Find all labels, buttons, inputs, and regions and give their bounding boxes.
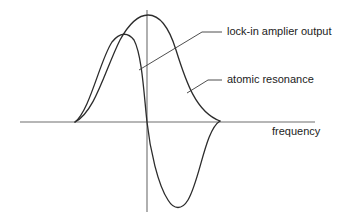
atomic-resonance-label: atomic resonance	[227, 74, 314, 85]
frequency-axis-label: frequency	[272, 126, 320, 137]
atomic-leader-line	[187, 80, 222, 93]
lockin-output-label: lock-in amplier output	[227, 26, 332, 37]
lockin-resonance-diagram: lock-in amplier output atomic resonance …	[0, 0, 341, 222]
